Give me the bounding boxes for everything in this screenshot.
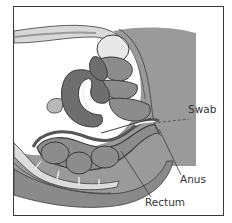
bowel-content-2 xyxy=(66,152,92,174)
swab-label: Swab xyxy=(188,104,216,115)
bowel-content-3 xyxy=(91,146,119,168)
ovary xyxy=(47,98,63,113)
anus-label: Anus xyxy=(180,174,206,185)
bowel-content-1 xyxy=(41,142,69,164)
rectum-label: Rectum xyxy=(145,197,185,208)
intestine-highlight xyxy=(83,85,91,109)
